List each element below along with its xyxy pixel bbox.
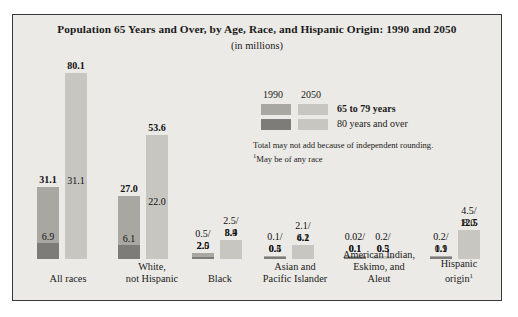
bar-group-bars: 0.10.02/0.10.50.2/0.3 bbox=[342, 49, 416, 259]
bar-1990 bbox=[264, 256, 286, 259]
bar-segment-80plus bbox=[65, 187, 87, 259]
bar-segment-65to79 bbox=[292, 245, 314, 255]
bar-segment-80plus bbox=[292, 254, 314, 259]
bar-group-bars: 27.06.153.622.0 bbox=[116, 49, 188, 259]
category-label: American Indian,Eskimo, and Aleut bbox=[342, 249, 416, 285]
bar-1990 bbox=[192, 253, 214, 259]
bar-segment-65to79 bbox=[458, 230, 480, 249]
bar-split-label: 8.0 bbox=[448, 217, 490, 228]
bar-split-label: 2.1/ bbox=[282, 220, 324, 231]
bar-split-label: 5.9 bbox=[210, 227, 252, 238]
bar-total-label: 80.1 bbox=[55, 60, 97, 71]
category-label: White,not Hispanic bbox=[116, 261, 188, 285]
category-label: Hispanicorigin1 bbox=[428, 258, 490, 285]
bar-group-bars: 0.50.1/0.46.22.1/4.1 bbox=[262, 49, 328, 259]
bar-2050 bbox=[458, 230, 480, 259]
bar-segment-80plus bbox=[220, 253, 242, 259]
category-label: All races bbox=[35, 273, 101, 285]
bar-over80-label: 6.9 bbox=[29, 231, 67, 242]
bar-total-label: 53.6 bbox=[136, 122, 178, 133]
bar-split-label: 4.5/ bbox=[448, 205, 490, 216]
bar-total-label: 27.0 bbox=[108, 183, 150, 194]
bar-split-label: 2.5/ bbox=[210, 215, 252, 226]
bar-split-label: 0.9 bbox=[420, 243, 462, 254]
bar-segment-80plus bbox=[118, 245, 140, 259]
bar-1990 bbox=[118, 196, 140, 259]
category-label: Black bbox=[190, 273, 250, 285]
bar-split-label: 0.4 bbox=[254, 243, 296, 254]
bar-split-label: 4.1 bbox=[282, 232, 324, 243]
chart-plot-area: 31.16.980.131.1All races27.06.153.622.0W… bbox=[13, 15, 501, 300]
bar-2050 bbox=[65, 73, 87, 259]
bar-split-label: 0.2/ bbox=[420, 231, 462, 242]
category-label: Asian andPacific Islander bbox=[262, 261, 328, 285]
bar-over80-label: 22.0 bbox=[138, 196, 176, 207]
bar-segment-65to79 bbox=[220, 240, 242, 254]
bar-segment-80plus bbox=[37, 243, 59, 259]
bar-group-bars: 2.50.5/2.08.42.5/5.9 bbox=[190, 49, 250, 259]
bar-split-label: 2.0 bbox=[182, 240, 224, 251]
bar-segment-80plus bbox=[264, 257, 286, 259]
chart-panel: Population 65 Years and Over, by Age, Ra… bbox=[12, 14, 502, 301]
bar-segment-65to79 bbox=[65, 73, 87, 187]
bar-over80-label: 31.1 bbox=[57, 175, 95, 186]
chart-stage: Population 65 Years and Over, by Age, Ra… bbox=[0, 0, 518, 317]
bar-over80-label: 6.1 bbox=[110, 233, 148, 244]
bar-group-bars: 31.16.980.131.1 bbox=[35, 49, 101, 259]
bar-2050 bbox=[292, 245, 314, 259]
bar-segment-80plus bbox=[192, 257, 214, 259]
bar-2050 bbox=[220, 240, 242, 260]
bar-split-label: 0.2/ bbox=[362, 231, 404, 242]
bar-group-bars: 1.10.2/0.912.54.5/8.0 bbox=[428, 49, 490, 259]
bar-1990 bbox=[37, 187, 59, 259]
bar-segment-80plus bbox=[146, 208, 168, 259]
